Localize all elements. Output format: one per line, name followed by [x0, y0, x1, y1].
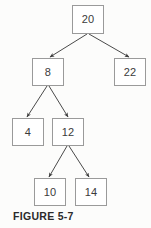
tree-node-leaf-lower-left: 10 — [34, 178, 66, 206]
tree-edge — [89, 34, 129, 57]
tree-edge — [27, 86, 47, 117]
tree-edge — [49, 86, 68, 117]
tree-node-label: 10 — [44, 187, 57, 198]
tree-node-subtree-root: 12 — [52, 118, 84, 146]
tree-node-left-child: 8 — [32, 58, 64, 86]
tree-node-label: 22 — [124, 67, 137, 78]
tree-edge — [50, 34, 87, 57]
figure-container: 20 8 22 4 12 10 14 FIGURE 5-7 — [0, 0, 151, 228]
tree-node-label: 14 — [85, 187, 98, 198]
tree-node-leaf-lower-right: 14 — [75, 178, 107, 206]
tree-node-label: 20 — [82, 14, 95, 25]
tree-node-label: 12 — [62, 127, 75, 138]
figure-caption: FIGURE 5-7 — [13, 210, 74, 222]
tree-node-label: 8 — [45, 67, 51, 78]
tree-node-root: 20 — [72, 5, 104, 34]
tree-edge — [69, 146, 89, 177]
tree-node-label: 4 — [25, 127, 31, 138]
tree-node-right-child: 22 — [114, 58, 146, 86]
edge-layer — [27, 34, 129, 177]
tree-node-leaf-left: 4 — [12, 118, 44, 146]
tree-edge — [49, 146, 67, 177]
